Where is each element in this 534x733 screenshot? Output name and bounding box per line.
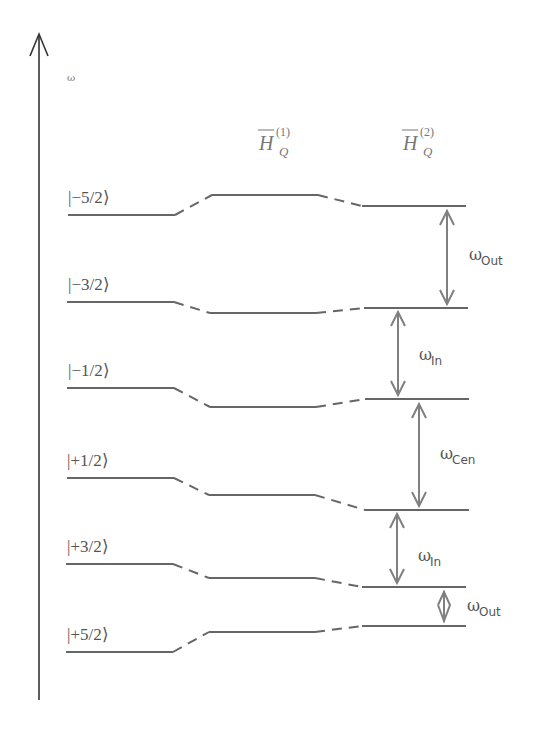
transition-label-out-top: ω Out: [469, 245, 503, 268]
svg-text:Cen: Cen: [452, 453, 475, 467]
svg-text:Q: Q: [279, 144, 289, 159]
transition-labels: ω Out ω In ω Cen ω In ω Out: [418, 245, 503, 619]
state-label: |+5/2⟩: [67, 625, 109, 644]
axis-label: ω: [67, 72, 75, 83]
transition-label-in-upper: ω In: [419, 345, 442, 368]
levels-first-order: [209, 195, 318, 632]
svg-text:H: H: [402, 132, 419, 154]
column-header-first-order: H (1) Q: [258, 125, 290, 159]
state-label: |+3/2⟩: [67, 537, 109, 556]
state-label: |+1/2⟩: [67, 451, 109, 470]
energy-level-diagram: ω H (1) Q H (2) Q |−5/2⟩ |−3/2⟩ |−1/2⟩ |…: [0, 0, 534, 733]
double-arrow-icon: [438, 591, 450, 622]
double-arrow-icon: [390, 514, 404, 583]
levels-second-order: [362, 206, 469, 626]
svg-text:H: H: [258, 132, 275, 154]
state-label: |−1/2⟩: [68, 361, 110, 380]
transition-label-out-bottom: ω Out: [467, 596, 501, 619]
svg-text:In: In: [430, 555, 441, 569]
state-label: |−3/2⟩: [68, 275, 110, 294]
svg-text:Out: Out: [481, 254, 503, 268]
state-labels: |−5/2⟩ |−3/2⟩ |−1/2⟩ |+1/2⟩ |+3/2⟩ |+5/2…: [67, 188, 110, 644]
svg-text:(1): (1): [276, 125, 290, 139]
svg-text:Out: Out: [479, 605, 501, 619]
transition-label-cen: ω Cen: [440, 444, 475, 467]
double-arrow-icon: [440, 210, 454, 304]
double-arrow-icon: [391, 312, 405, 395]
dashed-connectors: [173, 195, 365, 652]
svg-text:In: In: [431, 354, 442, 368]
state-label: |−5/2⟩: [68, 188, 110, 207]
transition-label-in-lower: ω In: [418, 546, 441, 569]
double-arrow-icon: [412, 404, 426, 506]
svg-text:(2): (2): [420, 125, 434, 139]
svg-text:Q: Q: [423, 144, 433, 159]
column-header-second-order: H (2) Q: [402, 125, 434, 159]
